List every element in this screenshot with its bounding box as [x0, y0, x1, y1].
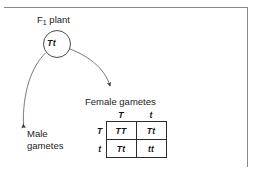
punnett-cell-0-1: Tt — [136, 122, 166, 140]
punnett-row: t Tt tt — [94, 140, 166, 158]
punnett-cell-0-0: TT — [106, 122, 136, 140]
punnett-cell-1-0: Tt — [106, 140, 136, 158]
f1-label-subscript: 1 — [43, 19, 47, 26]
punnett-square: T t T TT Tt t Tt tt — [94, 109, 167, 158]
punnett-col-header-1: t — [136, 109, 166, 122]
punnett-cell-1-1: tt — [136, 140, 166, 158]
female-gametes-arrow — [70, 49, 110, 86]
punnett-row-header-0: T — [94, 122, 106, 140]
f1-plant-label: F1 plant — [37, 14, 70, 26]
male-gametes-arrow — [23, 53, 45, 128]
punnett-col-header-0: T — [106, 109, 136, 122]
genetics-punnett-figure: F1 plant Tt Female gametes Male gametes … — [0, 0, 264, 172]
punnett-corner-cell — [94, 109, 106, 122]
female-gametes-label: Female gametes — [85, 96, 156, 107]
f1-label-suffix: plant — [47, 14, 70, 25]
parent-genotype-label: Tt — [47, 38, 56, 49]
f1-label-letter: F — [37, 14, 43, 25]
punnett-header-row: T t — [94, 109, 166, 122]
punnett-row: T TT Tt — [94, 122, 166, 140]
punnett-table: T t T TT Tt t Tt tt — [94, 109, 167, 158]
male-gametes-label: Male gametes — [27, 128, 79, 152]
punnett-row-header-1: t — [94, 140, 106, 158]
